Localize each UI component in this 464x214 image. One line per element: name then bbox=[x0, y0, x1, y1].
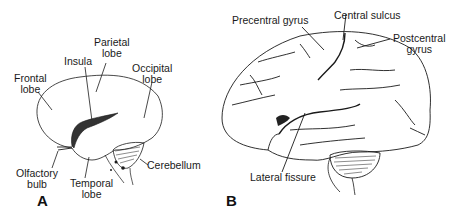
label-olfactory-bulb: Olfactory bulb bbox=[16, 168, 58, 190]
label-postcentral-gyrus: Postcentral gyrus bbox=[393, 33, 446, 55]
insula-region bbox=[71, 113, 118, 148]
label-occipital-lobe: Occipital lobe bbox=[132, 63, 172, 85]
panel-letter-a: A bbox=[37, 192, 48, 209]
label-lateral-fissure: Lateral fissure bbox=[250, 172, 316, 183]
label-insula: Insula bbox=[64, 56, 92, 67]
panel-letter-b: B bbox=[226, 192, 237, 209]
label-parietal-lobe: Parietal lobe bbox=[94, 37, 130, 59]
label-central-sulcus: Central sulcus bbox=[334, 10, 401, 21]
brain-diagram: Frontal lobe Insula Parietal lobe Occipi… bbox=[0, 0, 464, 214]
label-cerebellum: Cerebellum bbox=[147, 160, 201, 171]
label-temporal-lobe: Temporal lobe bbox=[70, 178, 113, 200]
label-precentral-gyrus: Precentral gyrus bbox=[232, 15, 308, 26]
label-frontal-lobe: Frontal lobe bbox=[14, 73, 47, 95]
